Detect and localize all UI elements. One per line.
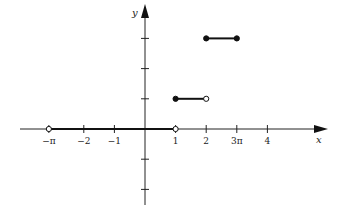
axes: x y <box>20 4 328 205</box>
open-endpoint <box>46 126 51 131</box>
closed-endpoint <box>173 96 178 101</box>
x-axis-arrow-icon <box>314 125 328 133</box>
x-axis-label: x <box>316 134 322 145</box>
y-axis-arrow-icon <box>141 4 149 18</box>
closed-endpoint <box>204 36 209 41</box>
x-tick-label: −1 <box>108 136 121 146</box>
ticks: −π−2−1123π4 <box>42 38 270 189</box>
x-tick-label: −2 <box>77 136 90 146</box>
open-endpoint <box>204 96 209 101</box>
x-tick-label: 3π <box>231 136 243 146</box>
x-tick-label: 4 <box>265 136 271 146</box>
segments <box>46 36 239 132</box>
y-axis-label: y <box>131 7 138 18</box>
x-tick-label: 1 <box>173 136 179 146</box>
open-endpoint <box>173 126 178 131</box>
x-tick-label: −π <box>42 136 56 146</box>
x-tick-label: 2 <box>203 136 209 146</box>
step-function-chart: x y −π−2−1123π4 <box>0 0 340 212</box>
closed-endpoint <box>234 36 239 41</box>
